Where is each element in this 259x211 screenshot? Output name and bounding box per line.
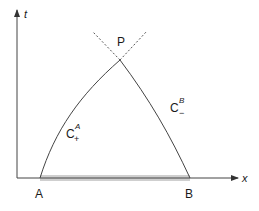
dashed-extension-left — [93, 32, 120, 60]
point-a-label: A — [35, 187, 43, 201]
svg-text:−: − — [179, 108, 184, 118]
characteristics-diagram: t x P A B C A + C B − — [0, 0, 259, 211]
svg-text:B: B — [179, 96, 185, 105]
curve-label-c-minus-b: C B − — [170, 96, 185, 118]
t-axis-label: t — [24, 8, 28, 20]
svg-text:+: + — [74, 134, 79, 144]
point-b-label: B — [185, 187, 193, 201]
curve-c-plus-a — [40, 60, 120, 178]
curve-c-minus-b — [120, 60, 190, 178]
svg-text:A: A — [74, 122, 80, 131]
x-axis-label: x — [241, 172, 248, 184]
curve-label-c-plus-a: C A + — [66, 122, 80, 144]
svg-text:C: C — [170, 101, 179, 115]
point-p-label: P — [117, 35, 125, 49]
